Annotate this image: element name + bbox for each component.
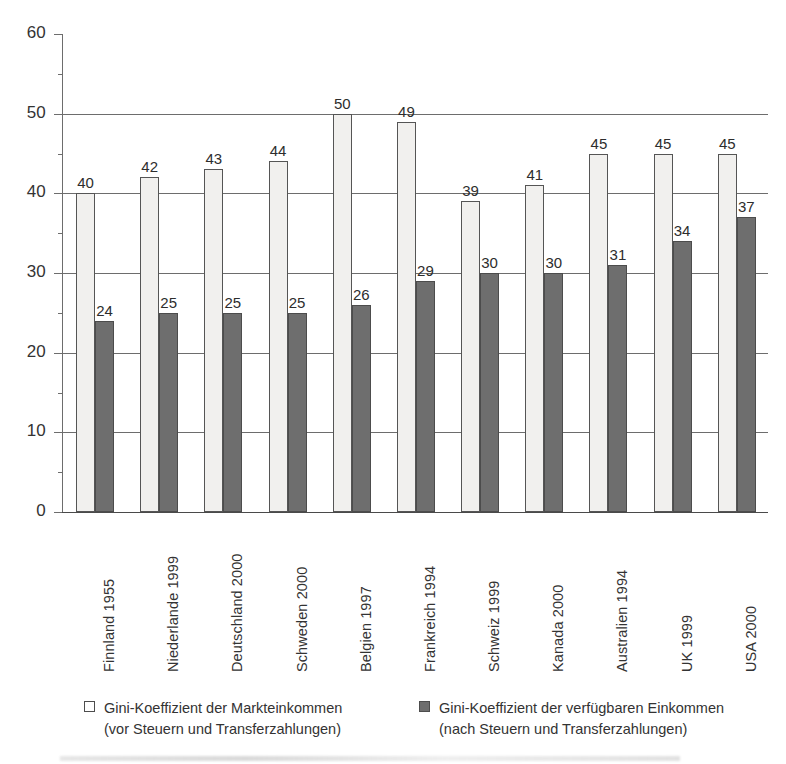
x-axis-label: Niederlande 1999 — [165, 556, 181, 672]
bar-disposable-income — [352, 305, 371, 512]
bar-disposable-income — [608, 265, 627, 512]
bar-disposable-income — [159, 313, 178, 512]
bar-disposable-income — [544, 273, 563, 512]
x-axis-label: USA 2000 — [743, 606, 759, 672]
bar-value-label: 44 — [261, 142, 296, 159]
bar-market-income — [269, 161, 288, 512]
bar-value-label: 41 — [517, 166, 552, 183]
bar-market-income — [76, 193, 95, 512]
x-axis-label: Kanada 2000 — [550, 585, 566, 672]
x-axis-label: Belgien 1997 — [358, 586, 374, 672]
bar-disposable-income — [95, 321, 114, 512]
bar-value-label: 29 — [408, 262, 443, 279]
bar-value-label: 30 — [536, 254, 571, 271]
bar-market-income — [525, 185, 544, 512]
y-axis-tick-label: 0 — [36, 501, 46, 521]
x-axis-label: Schweden 2000 — [294, 567, 310, 672]
bar-value-label: 34 — [665, 222, 700, 239]
bar-value-label: 30 — [472, 254, 507, 271]
bar-value-label: 31 — [600, 246, 635, 263]
bar-disposable-income — [223, 313, 242, 512]
x-axis-label: Australien 1994 — [614, 570, 630, 672]
axis-baseline — [62, 512, 768, 513]
bar-value-label: 26 — [344, 286, 379, 303]
y-axis-tick-label: 60 — [27, 23, 46, 43]
bar-value-label: 25 — [215, 294, 250, 311]
bar-market-income — [397, 122, 416, 512]
bar-value-label: 45 — [710, 135, 745, 152]
bar-market-income — [654, 154, 673, 513]
bar-value-label: 42 — [132, 158, 167, 175]
bar-disposable-income — [737, 217, 756, 512]
legend-label-disposable-income: Gini-Koeffizient der verfügbaren Einkomm… — [439, 698, 724, 740]
bar-value-label: 43 — [196, 150, 231, 167]
x-axis-label: Frankreich 1994 — [422, 566, 438, 672]
bar-market-income — [333, 114, 352, 512]
y-axis-tick-label: 40 — [27, 182, 46, 202]
legend-label-line2: (vor Steuern und Transferzahlungen) — [104, 719, 342, 740]
y-axis-tick-label: 20 — [27, 342, 46, 362]
bar-market-income — [589, 154, 608, 513]
bar-value-label: 49 — [389, 103, 424, 120]
x-axis-label: UK 1999 — [679, 615, 695, 672]
bar-value-label: 25 — [280, 294, 315, 311]
legend-label-line1: Gini-Koeffizient der verfügbaren Einkomm… — [439, 700, 724, 716]
bar-disposable-income — [480, 273, 499, 512]
y-axis-tick-label: 50 — [27, 103, 46, 123]
scan-artifact — [60, 756, 680, 761]
chart-legend: Gini-Koeffizient der Markteinkommen (vor… — [0, 696, 786, 752]
legend-swatch-dark-icon — [419, 701, 430, 712]
bar-value-label: 45 — [581, 135, 616, 152]
y-axis-tick-label: 30 — [27, 262, 46, 282]
bar-value-label: 25 — [151, 294, 186, 311]
bar-value-label: 37 — [729, 198, 764, 215]
bar-value-label: 40 — [68, 174, 103, 191]
bar-market-income — [140, 177, 159, 512]
legend-label-line1: Gini-Koeffizient der Markteinkommen — [104, 700, 342, 716]
bar-disposable-income — [416, 281, 435, 512]
legend-swatch-light-icon — [84, 701, 95, 712]
bar-disposable-income — [288, 313, 307, 512]
x-axis-label: Schweiz 1999 — [486, 581, 502, 672]
bar-value-label: 39 — [453, 182, 488, 199]
x-axis-label: Deutschland 2000 — [229, 554, 245, 673]
legend-entry-disposable-income: Gini-Koeffizient der verfügbaren Einkomm… — [419, 698, 724, 740]
bar-value-label: 45 — [646, 135, 681, 152]
legend-label-line2: (nach Steuern und Transferzahlungen) — [439, 719, 724, 740]
bar-market-income — [204, 169, 223, 512]
bar-disposable-income — [673, 241, 692, 512]
gini-coefficient-bar-chart: 0102030405060 40244225432544255026492939… — [0, 0, 786, 764]
legend-entry-market-income: Gini-Koeffizient der Markteinkommen (vor… — [84, 698, 342, 740]
x-axis-label: Finnland 1955 — [101, 579, 117, 672]
y-axis-tick-label: 10 — [27, 421, 46, 441]
legend-label-market-income: Gini-Koeffizient der Markteinkommen (vor… — [104, 698, 342, 740]
bar-value-label: 50 — [325, 95, 360, 112]
bar-value-label: 24 — [87, 302, 122, 319]
bar-market-income — [461, 201, 480, 512]
